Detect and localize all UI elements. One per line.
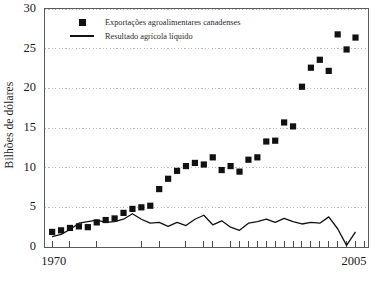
legend-line-marker-icon [59,35,105,37]
y-axis-tick-label: 25 [8,41,40,54]
legend-label-exports: Exportações agroalimentares canadenses [105,18,240,27]
plot-svg [45,9,368,247]
legend-label-net-income: Resultado agrícola líquido [105,32,193,41]
y-axis-tick-label: 10 [8,160,40,173]
chart-legend: Exportações agroalimentares canadenses R… [59,15,309,43]
y-axis-tick-label: 30 [8,2,40,15]
y-axis-tick-label: 15 [8,121,40,134]
legend-square-marker-icon [59,19,105,26]
legend-item-net-income: Resultado agrícola líquido [59,29,309,43]
y-axis-tick-label: 5 [8,200,40,213]
y-axis-tick-label: 0 [8,240,40,253]
y-axis-tick-labels: 302520151050 [8,0,40,287]
legend-item-exports: Exportações agroalimentares canadenses [59,15,309,29]
x-axis-label-end: 2005 [341,255,366,268]
x-axis-label-start: 1970 [41,255,66,268]
plot-area: Exportações agroalimentares canadenses R… [44,8,369,248]
y-axis-tick-label: 20 [8,81,40,94]
chart-container: Bilhões de dólares 302520151050 1970 200… [0,0,382,287]
